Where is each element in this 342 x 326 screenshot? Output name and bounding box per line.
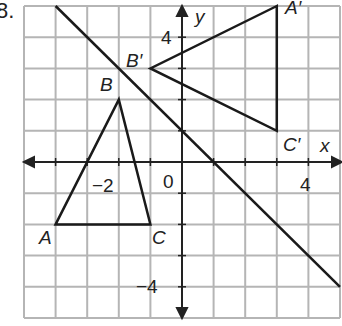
y-axis-label: y	[193, 6, 206, 27]
vertex-label-c: C	[152, 227, 166, 248]
x-axis-label: x	[319, 135, 331, 156]
vertex-label-a: A	[38, 227, 52, 248]
vertex-label-c-prime: C′	[283, 134, 302, 155]
tick-label-y-4: 4	[161, 27, 172, 48]
vertex-label-a-prime: A′	[284, 0, 303, 18]
coordinate-graph: x y −2 4 0 4 −4 A B C A′ B′ C′	[0, 0, 342, 326]
tick-label-origin: 0	[163, 171, 174, 192]
vertex-label-b: B	[100, 74, 113, 95]
vertex-label-b-prime: B′	[126, 50, 144, 71]
tick-label-y-neg4: −4	[136, 276, 158, 297]
tick-label-x-neg2: −2	[92, 175, 114, 196]
tick-label-x-4: 4	[300, 174, 311, 195]
